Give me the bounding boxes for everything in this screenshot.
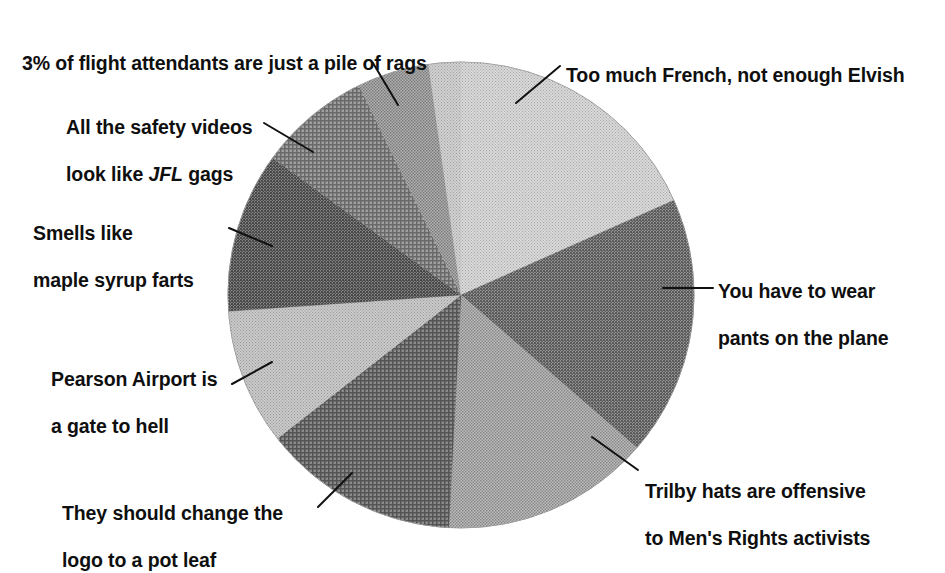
slice-label-potleaf-line1: They should change the <box>62 502 283 524</box>
slice-label-potleaf-line2: logo to a pot leaf <box>62 549 216 571</box>
slice-label-pearson-line1: Pearson Airport is <box>51 368 218 390</box>
slice-label-maple-line2: maple syrup farts <box>33 269 194 291</box>
slice-label-jfl-line2-pre: look like <box>66 163 148 185</box>
slice-label-trilby-line2: to Men's Rights activists <box>645 527 870 549</box>
slice-label-trilby: Trilby hats are offensive to Men's Right… <box>645 456 870 551</box>
slice-label-pants-line1: You have to wear <box>718 280 875 302</box>
slice-label-maple-line1: Smells like <box>33 222 133 244</box>
slice-label-elvish: Too much French, not enough Elvish <box>566 40 905 88</box>
slice-label-elvish-text: Too much French, not enough Elvish <box>566 64 905 86</box>
pie-texture-overlay <box>228 62 694 528</box>
slice-label-pants: You have to wear pants on the plane <box>718 256 888 351</box>
slice-label-potleaf: They should change the logo to a pot lea… <box>62 478 283 573</box>
slice-label-jfl-line1: All the safety videos <box>66 116 252 138</box>
slice-label-trilby-line1: Trilby hats are offensive <box>645 480 866 502</box>
slice-label-pants-line2: pants on the plane <box>718 327 888 349</box>
slice-label-jfl: All the safety videos look like JFL gags <box>66 92 252 187</box>
slice-label-pearson: Pearson Airport is a gate to hell <box>51 344 218 439</box>
slice-label-maple: Smells like maple syrup farts <box>33 198 194 293</box>
slice-label-rags-text: 3% of flight attendants are just a pile … <box>22 52 427 74</box>
slice-label-rags: 3% of flight attendants are just a pile … <box>22 28 427 76</box>
slice-label-pearson-line2: a gate to hell <box>51 415 169 437</box>
slice-label-jfl-line2-post: gags <box>183 163 233 185</box>
slice-label-jfl-emphasis: JFL <box>148 163 182 185</box>
